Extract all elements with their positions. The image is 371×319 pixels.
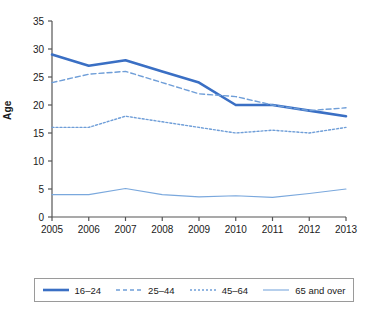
x-axis-tick-label: 2013 [335,224,358,235]
y-axis-tick-label: 5 [38,184,44,195]
y-axis-tick-group: 05101520253035 [33,16,52,223]
y-axis-tick-label: 0 [38,212,44,223]
series-line-45-64 [52,116,346,133]
legend-label-65-and-over: 65 and over [295,285,345,296]
legend-item-16-24: 16–24 [43,285,101,296]
y-axis-tick-label: 25 [33,72,45,83]
series-line-25-44 [52,71,346,110]
series-line-65-and-over [52,188,346,197]
legend-swatch-25-44-icon [116,286,142,294]
y-axis-tick-label: 20 [33,100,45,111]
x-axis-tick-label: 2009 [188,224,211,235]
legend-item-45-64: 45–64 [190,285,248,296]
x-axis-tick-label: 2011 [262,224,284,235]
x-axis-tick-label: 2008 [151,224,174,235]
chart-legend: 16–24 25–44 45–64 65 and over [34,278,354,302]
legend-item-65-and-over: 65 and over [263,285,345,296]
y-axis-tick-label: 15 [33,128,45,139]
legend-label-16-24: 16–24 [75,285,101,296]
data-series-group [52,55,346,198]
x-axis-tick-label: 2007 [114,224,137,235]
chart-canvas: 05101520253035 2005200620072008200920102… [0,0,371,319]
legend-label-45-64: 45–64 [222,285,248,296]
line-chart-figure: Age 05101520253035 200520062007200820092… [0,0,371,319]
y-axis-tick-label: 30 [33,44,45,55]
y-axis-tick-label: 35 [33,16,45,27]
x-axis-tick-group: 200520062007200820092010201120122013 [41,217,358,235]
legend-swatch-16-24-icon [43,286,69,294]
x-axis-tick-label: 2010 [225,224,248,235]
legend-item-25-44: 25–44 [116,285,174,296]
legend-swatch-45-64-icon [190,286,216,294]
legend-label-25-44: 25–44 [148,285,174,296]
y-axis-tick-label: 10 [33,156,45,167]
x-axis-tick-label: 2006 [78,224,101,235]
legend-swatch-65-and-over-icon [263,286,289,294]
x-axis-tick-label: 2005 [41,224,64,235]
series-line-16-24 [52,55,346,117]
x-axis-tick-label: 2012 [298,224,321,235]
